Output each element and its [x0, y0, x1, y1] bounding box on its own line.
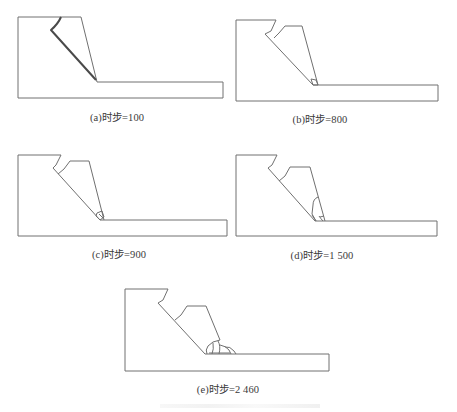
panel-a-caption: (a)时步=100: [90, 109, 144, 124]
panel-b-sliding-block: [274, 26, 318, 85]
figure-canvas: [0, 0, 457, 412]
slope-failure-figure: (a)时步=100 (b)时步=800 (c)时步=900 (d)时步=1 50…: [0, 0, 457, 412]
panel-d-caption: (d)时步=1 500: [291, 247, 354, 262]
figure-caption-cropped: [160, 404, 320, 408]
panel-e-debris-fragments: [206, 340, 236, 354]
panel-a-outline: [18, 17, 223, 98]
panel-e-caption: (e)时步=2 460: [197, 381, 259, 396]
panel-c-caption: (c)时步=900: [92, 246, 146, 261]
panel-d-sliding-block: [279, 167, 325, 221]
panel-a-slope-model: [18, 17, 223, 98]
panel-b-caption: (b)时步=800: [293, 111, 348, 126]
panel-c-slope-model: [18, 155, 227, 236]
panel-e-slope-model: [125, 289, 329, 371]
panel-e-sliding-block: [175, 306, 220, 340]
panel-d-internal-crack: [312, 197, 318, 221]
panel-d-outline: [236, 155, 437, 236]
panel-d-slope-model: [236, 155, 437, 236]
panel-e-outline: [125, 289, 329, 371]
panel-b-slope-model: [236, 20, 438, 101]
panel-c-sliding-block: [58, 161, 104, 220]
panel-c-outline: [18, 155, 227, 236]
panel-b-outline: [236, 20, 438, 101]
